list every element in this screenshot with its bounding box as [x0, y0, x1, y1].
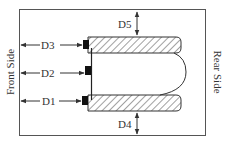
- rear-side-label: Rear Side: [212, 50, 224, 93]
- label-d3: D3: [41, 39, 55, 51]
- marker-d2: [85, 66, 91, 75]
- bottom-hatched-bar: [88, 95, 181, 111]
- marker-d1: [82, 96, 88, 105]
- diagram-canvas: D3 D2 D1 D5 D4 Front Side Rear Side: [0, 0, 228, 145]
- top-hatched-bar: [88, 37, 181, 53]
- label-d5: D5: [118, 18, 132, 30]
- label-d2: D2: [41, 67, 54, 79]
- marker-d3: [83, 40, 89, 49]
- rear-curve: [160, 53, 186, 95]
- label-d4: D4: [118, 118, 132, 130]
- front-side-label: Front Side: [4, 49, 16, 95]
- label-d1: D1: [42, 95, 55, 107]
